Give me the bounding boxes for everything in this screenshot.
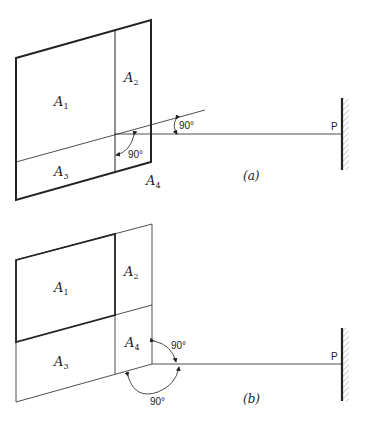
- angle-label-b-lower: 90°: [150, 396, 165, 407]
- label-a1-b: A1: [53, 280, 68, 297]
- divider-oblique-b: [115, 305, 152, 315]
- label-a2-a: A2: [123, 70, 138, 87]
- diagram-canvas: A1 A2 A3 A4 90° 90° (a) P A1 A2 A3 A4 90…: [0, 0, 365, 421]
- label-a3-b: A3: [53, 354, 68, 371]
- label-a2-b: A2: [123, 264, 138, 281]
- point-p-a: P: [331, 121, 338, 132]
- figure-a: A1 A2 A3 A4 90° 90° (a) P: [16, 20, 349, 200]
- caption-a: (a): [243, 169, 260, 183]
- caption-b: (b): [243, 392, 260, 406]
- label-a4-a: A4: [145, 173, 160, 190]
- oblique-line-a: [16, 110, 205, 162]
- label-a1-a: A1: [53, 94, 68, 111]
- point-p-b: P: [331, 351, 338, 362]
- label-a3-a: A3: [53, 164, 68, 181]
- label-a4-b: A4: [124, 335, 139, 352]
- angle-label-a-right: 90°: [179, 120, 194, 131]
- plate-outline-b: [16, 224, 152, 402]
- angle-label-a-left: 90°: [128, 149, 143, 160]
- angle-arc-a-right: [174, 119, 177, 134]
- angle-arc-b-lower: [128, 367, 179, 394]
- figure-b: A1 A2 A3 A4 90° 90° (b) P: [16, 224, 349, 407]
- angle-label-b-upper: 90°: [171, 340, 186, 351]
- plate-outline-a: [16, 20, 151, 200]
